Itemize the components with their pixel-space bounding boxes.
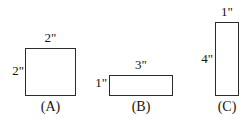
shape-b-width-label: 3" <box>109 58 173 71</box>
shape-c-height-label: 4" <box>191 52 213 65</box>
shape-c-caption: (C) <box>212 100 242 114</box>
shape-b-rectangle <box>109 75 173 96</box>
shape-a-caption: (A) <box>25 100 76 114</box>
shape-a-height-label: 2" <box>2 64 24 77</box>
shape-b-height-label: 1" <box>86 76 107 89</box>
shape-b-caption: (B) <box>109 100 173 114</box>
figure-canvas: 2" 2" (A) 3" 1" (B) 1" 4" (C) <box>0 0 252 130</box>
shape-a-width-label: 2" <box>25 31 76 44</box>
shape-c-width-label: 1" <box>214 5 240 18</box>
shape-c-rectangle <box>215 22 239 96</box>
shape-a-square <box>25 48 76 96</box>
